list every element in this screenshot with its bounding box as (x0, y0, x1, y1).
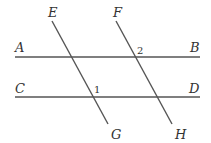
label-g: G (111, 127, 121, 142)
label-d: D (188, 81, 200, 96)
line-fh (116, 21, 172, 124)
label-b: B (189, 40, 200, 55)
angle-1-label: 1 (94, 84, 100, 95)
line-eg (52, 21, 108, 124)
label-e: E (47, 5, 58, 20)
label-h: H (174, 127, 187, 142)
angle-2-label: 2 (137, 45, 143, 56)
label-f: F (112, 5, 123, 20)
label-c: C (15, 81, 25, 96)
geometry-diagram: A B C D E F G H 1 2 (0, 0, 211, 143)
label-a: A (14, 40, 24, 55)
